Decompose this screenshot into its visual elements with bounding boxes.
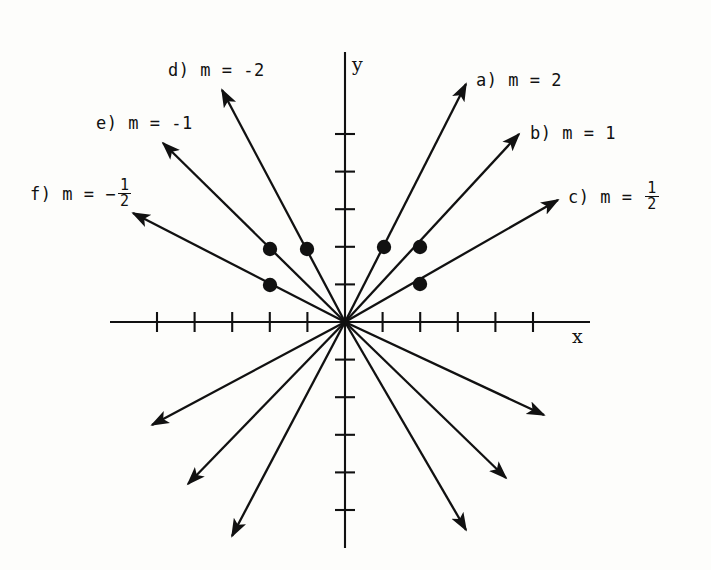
slope-label-c-body: m = — [600, 189, 643, 206]
slope-label-d-space — [189, 62, 200, 79]
slope-label-a-prefix: a) — [476, 72, 497, 89]
slope-label-f-sign: − — [105, 186, 116, 203]
slope-label-a-text — [497, 72, 508, 89]
slope-ray-f-down — [345, 322, 544, 415]
slope-ray-b-up — [345, 134, 519, 322]
slope-ray-d-down — [345, 322, 466, 530]
slope-ray-f-up — [133, 213, 345, 322]
slope-ray-e-down — [345, 322, 506, 478]
slope-ray-e-up — [163, 143, 345, 322]
slope-label-b-body: m = 1 — [562, 125, 616, 142]
slope-label-e-body: m = -1 — [128, 115, 192, 132]
lattice-point-pt-a — [377, 240, 391, 254]
slope-label-d-body: m = -2 — [200, 62, 264, 79]
slope-label-d-prefix: d) — [168, 62, 189, 79]
slope-label-f-prefix: f) — [30, 186, 51, 203]
figure-canvas: a) m = 2 b) m = 1 c) m = 1 2 d) m = — [0, 0, 711, 570]
slope-label-c-prefix: c) — [568, 189, 589, 206]
slope-label-f-denominator: 2 — [118, 194, 132, 209]
slope-label-e-space — [117, 115, 128, 132]
slope-label-b-prefix: b) — [530, 125, 551, 142]
slope-label-f-space — [51, 186, 62, 203]
slope-ray-b-down — [188, 322, 345, 484]
slope-label-f-body: m = — [62, 186, 105, 203]
slope-label-b-space — [551, 125, 562, 142]
slope-label-c: c) m = 1 2 — [568, 182, 659, 214]
x-axis-label: x — [572, 327, 583, 346]
slope-label-e: e) m = -1 — [96, 115, 193, 132]
y-axis-label: y — [352, 55, 363, 74]
slope-label-e-prefix: e) — [96, 115, 117, 132]
slope-label-b: b) m = 1 — [530, 125, 616, 142]
lattice-point-pt-c — [413, 277, 427, 291]
slope-ray-c-down — [152, 322, 345, 425]
slope-label-c-fraction: 1 2 — [645, 181, 659, 213]
lattice-point-pt-d — [300, 242, 314, 256]
slope-ray-a-down — [232, 322, 345, 536]
lattice-point-pt-f — [263, 278, 277, 292]
slope-label-c-space — [589, 189, 600, 206]
slope-label-f-fraction: 1 2 — [118, 178, 132, 210]
slope-ray-d-up — [222, 90, 345, 322]
lattice-point-pt-e — [263, 242, 277, 256]
slope-label-f: f) m = − 1 2 — [30, 179, 131, 211]
slope-diagram-svg — [0, 0, 711, 570]
slope-label-c-denominator: 2 — [645, 197, 659, 212]
slope-label-d: d) m = -2 — [168, 62, 265, 79]
slope-label-a-body: m = 2 — [508, 72, 562, 89]
slope-label-a: a) m = 2 — [476, 72, 562, 89]
lattice-point-pt-b — [413, 240, 427, 254]
